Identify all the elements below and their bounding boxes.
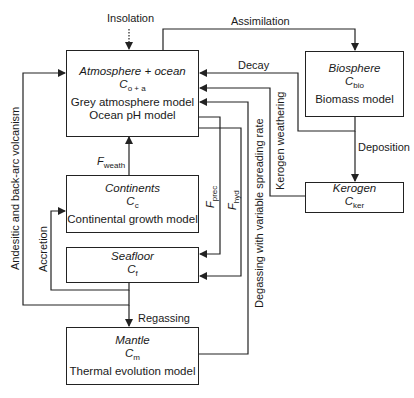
seafloor-title: Seafloor	[111, 250, 154, 263]
seafloor-symbol: Cf	[127, 263, 138, 280]
regassing-label: Regassing	[138, 312, 190, 324]
andesitic-label: Andesitic and back-arc volcanism	[9, 107, 21, 270]
assimilation-arrow	[163, 29, 355, 50]
biosphere-model: Biomass model	[315, 93, 394, 106]
kerogen-title: Kerogen	[333, 182, 376, 195]
atmosphere-symbol: Co + a	[119, 78, 145, 95]
seafloor-box: Seafloor Cf	[66, 247, 199, 283]
decay-label: Decay	[238, 59, 269, 71]
biosphere-title: Biosphere	[329, 62, 381, 75]
mantle-symbol: Cm	[125, 347, 140, 364]
continents-box: Continents Cc Continental growth model	[66, 175, 199, 233]
kerogen-box: Kerogen Cker	[305, 182, 404, 213]
f-weath-label: Fweath	[97, 155, 125, 170]
insolation-label: Insolation	[107, 12, 154, 24]
biosphere-box: Biosphere Cbio Biomass model	[305, 51, 404, 117]
atmosphere-model-1: Grey atmosphere model	[71, 96, 194, 109]
biosphere-symbol: Cbio	[345, 75, 364, 92]
assimilation-label: Assimilation	[231, 15, 290, 27]
mantle-box: Mantle Cm Thermal evolution model	[66, 327, 199, 385]
degassing-label: Degassing with variable spreading rate	[253, 118, 265, 308]
f-prec-label: Fprec	[204, 186, 219, 208]
continents-model: Continental growth model	[67, 213, 197, 226]
kerogen-weathering-label: Kerogen weathering	[274, 92, 286, 190]
kerogen-symbol: Cker	[345, 195, 364, 212]
accretion-label: Accretion	[37, 226, 49, 272]
atmosphere-model-2: Ocean pH model	[89, 109, 175, 122]
atmosphere-ocean-box: Atmosphere + ocean Co + a Grey atmospher…	[66, 50, 199, 137]
f-hyd-label: Fhyd	[226, 190, 241, 210]
continents-title: Continents	[105, 182, 160, 195]
mantle-title: Mantle	[115, 334, 150, 347]
continents-symbol: Cc	[126, 195, 138, 212]
mantle-model: Thermal evolution model	[70, 365, 196, 378]
atmosphere-title: Atmosphere + ocean	[79, 65, 185, 78]
deposition-label: Deposition	[358, 141, 410, 153]
